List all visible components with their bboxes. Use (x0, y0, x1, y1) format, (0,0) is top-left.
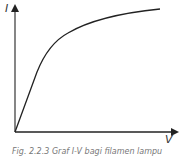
iv-diagram (0, 0, 192, 157)
x-axis-label: V (165, 133, 173, 146)
iv-curve (15, 9, 160, 132)
figure-caption: Fig. 2.2.3 Graf I-V bagi filamen lampu (12, 147, 162, 156)
y-axis-label: I (5, 2, 8, 15)
